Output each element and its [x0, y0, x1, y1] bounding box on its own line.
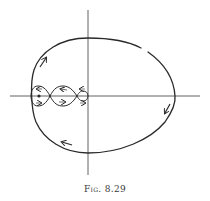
arrow-icon-upper-left [40, 58, 46, 67]
figure-caption: Fig. 8.29 [0, 184, 210, 194]
phase-portrait-figure [0, 0, 210, 201]
equilibrium-point-dot [37, 94, 40, 97]
arrow-icon-bottom-left [62, 142, 72, 145]
arrow-icon-right [165, 104, 170, 113]
outer-orbit [32, 38, 176, 153]
arrow-icon-loop2-top [61, 89, 67, 90]
